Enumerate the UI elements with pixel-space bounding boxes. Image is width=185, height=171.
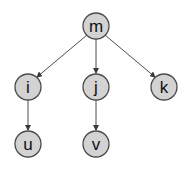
edge-m-i — [37, 35, 87, 77]
node-label: m — [89, 17, 103, 36]
node-label: u — [23, 135, 32, 154]
tree-node-k: k — [151, 74, 177, 100]
node-label: k — [160, 78, 169, 97]
node-label: i — [26, 78, 30, 97]
tree-diagram: m i j k u v — [0, 0, 185, 171]
tree-node-v: v — [83, 131, 109, 157]
tree-node-i: i — [15, 74, 41, 100]
node-label: v — [92, 135, 101, 154]
tree-node-j: j — [83, 74, 109, 100]
tree-node-u: u — [15, 131, 41, 157]
node-label: j — [93, 78, 98, 97]
tree-node-m: m — [83, 13, 109, 39]
edge-m-k — [105, 35, 155, 77]
